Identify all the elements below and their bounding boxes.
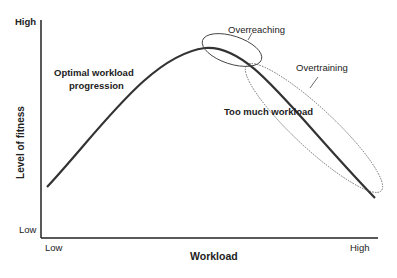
y-axis-label: Level of fitness bbox=[15, 106, 26, 179]
diagram-canvas bbox=[0, 0, 397, 278]
optimal-label-line2: progression bbox=[69, 80, 124, 91]
overtraining-label: Overtraining bbox=[296, 62, 348, 73]
y-axis-low: Low bbox=[19, 224, 36, 235]
optimal-label-line1: Optimal workload bbox=[54, 67, 134, 78]
x-axis-low: Low bbox=[45, 242, 62, 253]
overreaching-label: Overreaching bbox=[228, 24, 285, 35]
overtraining-ellipse bbox=[233, 51, 395, 206]
too-much-workload-label: Too much workload bbox=[224, 106, 313, 117]
overtraining-leader bbox=[310, 77, 318, 88]
x-axis-label: Workload bbox=[190, 250, 238, 262]
x-axis-high: High bbox=[350, 242, 370, 253]
y-axis-high: High bbox=[15, 16, 36, 27]
